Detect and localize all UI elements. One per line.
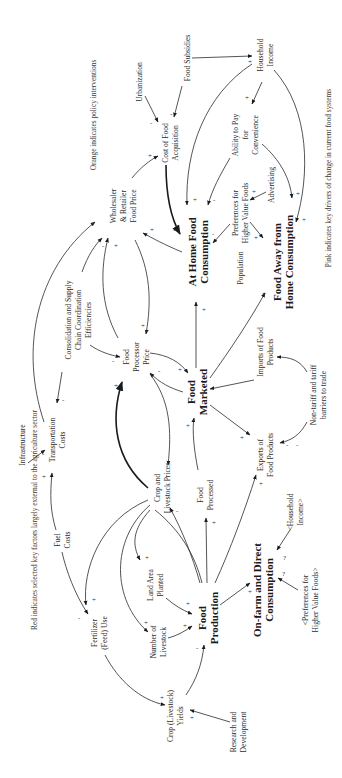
svg-text:& Retailer: & Retailer: [119, 190, 128, 222]
edge-ability-athome: [208, 158, 230, 205]
svg-text:Advertising: Advertising: [267, 167, 276, 203]
sign-minus: -: [42, 450, 45, 458]
svg-text:Food: Food: [196, 606, 208, 630]
node-population: Population: [236, 251, 245, 284]
edge-processed-marketed: [193, 418, 198, 470]
node-urbanization: Urbanization: [135, 62, 144, 102]
svg-text:Consumption: Consumption: [263, 558, 275, 622]
svg-text:Infrastructure: Infrastructure: [18, 424, 27, 466]
node-food-subsidies: Food Subsidies: [183, 35, 192, 82]
edge-production-crop: [170, 508, 200, 583]
sign-plus: +: [160, 694, 164, 702]
svg-text:Marketed: Marketed: [197, 369, 209, 415]
svg-text:Income>: Income>: [296, 498, 305, 525]
sign-plus: +: [92, 596, 96, 604]
edge-marketed-exports: [210, 405, 250, 435]
edge-production-onfarm: [220, 583, 250, 605]
sign-plus: +: [42, 473, 46, 481]
svg-text:Home Consumption: Home Consumption: [283, 215, 295, 309]
sign-plus: +: [186, 600, 190, 608]
svg-text:Food: Food: [122, 349, 131, 365]
node-imports: Imports of Food Products: [256, 327, 275, 377]
node-transportation-costs: Transportation Costs: [48, 418, 67, 463]
svg-text:Higher Value Foods: Higher Value Foods: [241, 183, 250, 244]
svg-text:Preferences for: Preferences for: [231, 189, 240, 236]
svg-text:Processor: Processor: [132, 342, 141, 372]
node-food-production: Food Production: [196, 592, 220, 644]
sign-minus: -: [296, 441, 299, 449]
node-exports: Exports of Food Products: [256, 433, 275, 477]
node-wholesaler-price: Wholesaler & Retailer Food Price: [109, 188, 138, 223]
sign-plus: +: [245, 94, 249, 102]
node-cost-food-acquisition: Cost of Food Acquisition: [161, 123, 180, 163]
svg-text:Orange indicates policy interv: Orange indicates policy interventions: [89, 60, 98, 171]
edge-pref-athome: [213, 224, 230, 243]
svg-text:Yields: Yields: [176, 706, 185, 725]
node-preferences-hvf: Preferences for Higher Value Foods: [231, 183, 250, 244]
sign-plus: +: [141, 322, 145, 330]
node-research-development: Research and Development: [229, 711, 248, 753]
edge-crop-production: [155, 510, 202, 583]
node-advertising: Advertising: [267, 167, 276, 203]
node-household-income-shadow: <Household Income>: [286, 493, 305, 530]
edge-subsidies-income: [192, 56, 252, 58]
svg-text:Planted: Planted: [156, 573, 165, 596]
edge-processor-crop: [150, 374, 170, 465]
svg-text:Efficiencies: Efficiencies: [84, 302, 93, 338]
edge-nontariff-imports: [277, 357, 307, 372]
sign-plus: +: [262, 290, 266, 298]
node-infrastructure: Infrastructure: [18, 424, 27, 466]
svg-text:Consumption: Consumption: [198, 220, 210, 284]
sign-plus: +: [302, 216, 306, 224]
edge-wholesaler-processor: [135, 240, 149, 334]
sign-minus: -: [176, 507, 179, 515]
svg-text:barriers to trade: barriers to trade: [319, 370, 328, 419]
svg-text:Number of: Number of: [149, 625, 158, 659]
edge-crop-processor: [116, 382, 148, 488]
note-red: Red indicates selected key factors large…: [30, 410, 39, 630]
sign-plus: +: [114, 382, 118, 390]
svg-text:Food Away from: Food Away from: [271, 223, 283, 301]
svg-text:(Feed) Use: (Feed) Use: [100, 616, 109, 650]
edge-fuel-transport: [51, 473, 56, 530]
sign-minus: -: [158, 367, 161, 375]
svg-text:Crop (Livestock): Crop (Livestock): [166, 689, 175, 742]
note-orange: Orange indicates policy interventions: [89, 60, 98, 171]
svg-text:Pink indicates key drivers of: Pink indicates key drivers of change in …: [324, 89, 333, 267]
edge-nontariff-exports: [280, 422, 307, 443]
svg-text:Livestock Prices: Livestock Prices: [163, 463, 172, 513]
svg-text:<Preferences for: <Preferences for: [301, 574, 310, 625]
edge-subsidies-cost: [174, 86, 182, 117]
causal-loop-diagram: + - - + + + - + + + - + - + + - + + + + …: [0, 0, 342, 778]
svg-text:Convenience: Convenience: [251, 115, 260, 155]
edge-processor-marketed: [150, 353, 188, 373]
svg-text:Chain Coordination: Chain Coordination: [74, 290, 83, 350]
svg-text:Fuel: Fuel: [53, 533, 62, 547]
edge-processor-wholesaler: [103, 238, 118, 338]
sign-minus: -: [150, 119, 153, 127]
sign-plus: +: [240, 434, 244, 442]
sign-plus: +: [296, 190, 300, 198]
edge-marketed-processor: [150, 373, 183, 392]
sign-minus: -: [213, 196, 216, 204]
sign-plus: +: [145, 554, 149, 562]
node-land-area-planted: Land Area Planted: [146, 568, 165, 600]
node-fertilizer-use: Fertilizer (Feed) Use: [90, 616, 109, 650]
edge-wholesaler-cost: [132, 156, 158, 178]
svg-text:Costs: Costs: [58, 432, 67, 449]
edge-crop-fertilizer: [85, 500, 148, 605]
sign-plus: +: [254, 234, 258, 242]
sign-minus: -: [212, 230, 215, 238]
sign-plus: +: [212, 519, 216, 527]
edge-fuel-fertilizer: [62, 552, 88, 614]
sign-minus: -: [196, 644, 199, 652]
svg-text:Non-tariff and tariff: Non-tariff and tariff: [309, 364, 318, 425]
node-preferences-hvf-shadow: <Preferences for Higher Value Foods>: [301, 568, 320, 633]
svg-text:Food Subsidies: Food Subsidies: [183, 35, 192, 82]
edge-hhincome-onfarm: [277, 530, 290, 550]
sign-minus: -: [78, 614, 81, 622]
sign-plus: +: [186, 422, 190, 430]
node-consolidation: Consolidation and Supply Chain Coordinat…: [64, 280, 93, 359]
svg-text:Land Area: Land Area: [146, 568, 155, 600]
nodes: Orange indicates policy interventions Pi…: [18, 35, 333, 753]
